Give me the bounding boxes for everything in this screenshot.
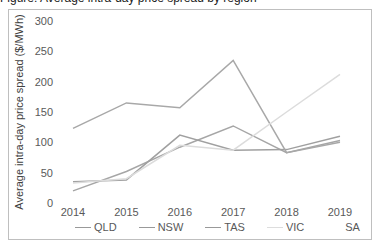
legend-item-nsw: NSW [139, 221, 184, 233]
x-axis-ticks: 201420152016201720182019 [61, 206, 352, 218]
chart-legend: QLDNSWTASVICSA [75, 221, 360, 233]
x-tick-label: 2015 [114, 206, 138, 218]
x-tick-label: 2016 [168, 206, 192, 218]
x-tick-label: 2018 [274, 206, 298, 218]
legend-label: NSW [158, 221, 184, 233]
series-line-vic [73, 74, 340, 183]
legend-item-tas: TAS [205, 221, 245, 233]
legend-swatch [75, 227, 91, 228]
y-axis-ticks: 050100150200250300 [35, 15, 53, 209]
legend-swatch [267, 227, 283, 228]
y-axis-label: Average intra-day price spread ($/MWh) [13, 14, 25, 209]
x-tick-label: 2014 [61, 206, 85, 218]
series-line-nsw [73, 135, 340, 182]
y-tick-label: 250 [35, 45, 53, 57]
legend-label: SA [345, 221, 360, 233]
legend-label: QLD [94, 221, 117, 233]
series-lines [73, 60, 340, 190]
legend-item-sa: SA [326, 221, 360, 233]
y-tick-label: 300 [35, 15, 53, 27]
line-chart: 050100150200250300 201420152016201720182… [0, 0, 378, 245]
legend-label: VIC [286, 221, 304, 233]
y-tick-label: 150 [35, 106, 53, 118]
legend-swatch [326, 227, 342, 228]
x-tick-label: 2019 [328, 206, 352, 218]
series-line-tas [73, 60, 340, 152]
legend-item-vic: VIC [267, 221, 304, 233]
y-tick-label: 200 [35, 76, 53, 88]
x-tick-label: 2017 [221, 206, 245, 218]
legend-label: TAS [224, 221, 245, 233]
legend-swatch [139, 227, 155, 228]
legend-swatch [205, 227, 221, 228]
y-tick-label: 50 [41, 167, 53, 179]
legend-item-qld: QLD [75, 221, 117, 233]
y-tick-label: 0 [47, 197, 53, 209]
y-tick-label: 100 [35, 136, 53, 148]
